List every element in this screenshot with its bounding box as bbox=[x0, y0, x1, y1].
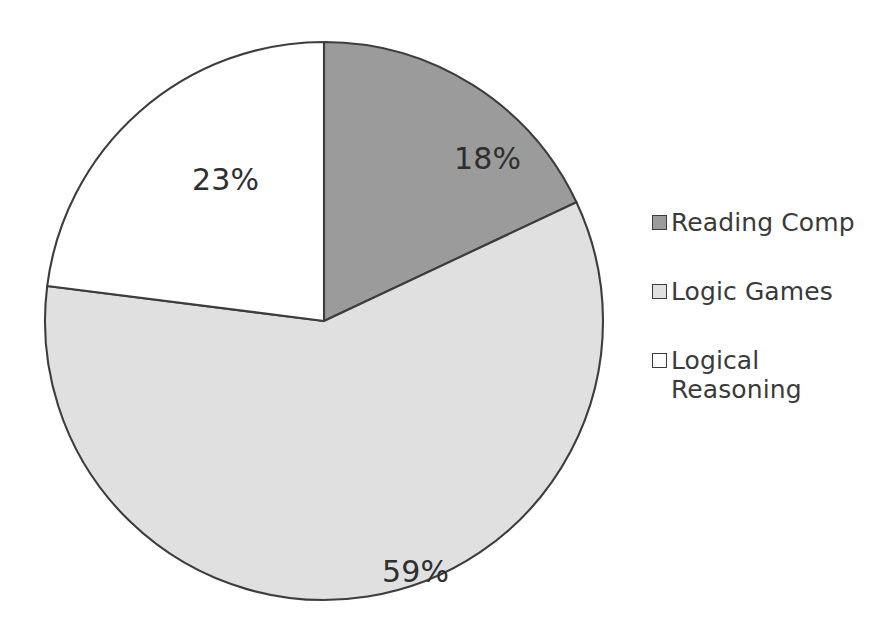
slice-data-label-logic-games: 59% bbox=[382, 554, 449, 589]
legend-swatch-icon-reading-comp bbox=[652, 215, 667, 230]
legend-item-logic-games[interactable]: Logic Games bbox=[652, 277, 880, 306]
legend-label-logical-reasoning: Logical Reasoning bbox=[671, 346, 880, 404]
slice-data-label-reading-comp: 18% bbox=[454, 141, 521, 176]
chart-legend: Reading Comp Logic Games Logical Reasoni… bbox=[652, 208, 880, 404]
pie-slices bbox=[45, 42, 603, 600]
legend-label-reading-comp: Reading Comp bbox=[671, 208, 855, 237]
legend-swatch-icon-logical-reasoning bbox=[652, 353, 667, 368]
legend-swatch-icon-logic-games bbox=[652, 284, 667, 299]
legend-item-reading-comp[interactable]: Reading Comp bbox=[652, 208, 880, 237]
pie-slice-logical-reasoning[interactable] bbox=[47, 42, 324, 321]
pie-svg bbox=[52, 38, 598, 604]
pie-chart-figure: 18% 23% 59% Reading Comp Logic Games Log… bbox=[0, 0, 896, 639]
legend-item-logical-reasoning[interactable]: Logical Reasoning bbox=[652, 346, 880, 404]
legend-label-logic-games: Logic Games bbox=[671, 277, 833, 306]
slice-data-label-logical-reasoning: 23% bbox=[192, 162, 259, 197]
pie-plot-area: 18% 23% 59% bbox=[52, 38, 598, 604]
